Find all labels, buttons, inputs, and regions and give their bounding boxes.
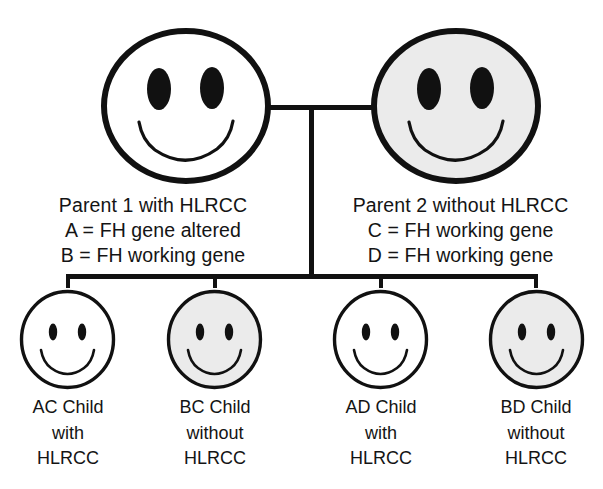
sibship-drop-child-ad [379,274,383,288]
child-ac-genotype: AC Child [0,395,136,421]
child-ad-label-block: AD Child with HLRCC [313,395,449,472]
child-ad-smiley-face [331,288,430,391]
parent-2-allele-c-description: FH working gene [404,219,553,241]
parent-2-allele-d: D = FH working gene [318,243,603,268]
child-bd-condition: HLRCC [468,446,603,472]
parent-2-allele-d-symbol: D [368,244,382,266]
parent-1-label-block: Parent 1 with HLRCC A = FH gene altered … [0,193,306,268]
parent-1-title: Parent 1 with HLRCC [0,193,306,218]
child-ad-condition: HLRCC [313,446,449,472]
parent-2-smiley-face [369,26,543,186]
parent-2-title: Parent 2 without HLRCC [318,193,603,218]
child-bc-status: without [147,421,283,447]
parent-1-allele-b-description: FH working gene [96,244,245,266]
child-bd-smiley-face [487,288,586,391]
sibship-horizontal-bar [66,274,538,279]
child-bd-label-block: BD Child without HLRCC [468,395,603,472]
child-ac-status: with [0,421,136,447]
parent-mating-horizontal-line [270,105,372,110]
child-bc-smiley-face [165,288,264,391]
parent-1-allele-a-symbol: A [65,219,77,241]
parent-1-allele-a-equals: = [83,219,95,241]
parent-1-allele-a: A = FH gene altered [0,218,306,243]
parent-1-allele-b-symbol: B [61,244,74,266]
child-bd-status: without [468,421,603,447]
parent-1-allele-b: B = FH working gene [0,243,306,268]
parent-1-smiley-face [99,26,273,186]
child-ad-genotype: AD Child [313,395,449,421]
hlrcc-inheritance-diagram: Parent 1 with HLRCC A = FH gene altered … [0,0,603,489]
parent-to-sibship-vertical-line [309,105,314,277]
child-bc-label-block: BC Child without HLRCC [147,395,283,472]
sibship-drop-child-bc [213,274,217,288]
child-bc-genotype: BC Child [147,395,283,421]
child-ac-smiley-face [18,288,117,391]
parent-2-allele-c-symbol: C [368,219,382,241]
child-bc-condition: HLRCC [147,446,283,472]
parent-2-allele-d-description: FH working gene [404,244,553,266]
parent-2-label-block: Parent 2 without HLRCC C = FH working ge… [318,193,603,268]
sibship-drop-child-ac [66,274,70,288]
child-bd-genotype: BD Child [468,395,603,421]
parent-2-allele-d-equals: = [387,244,399,266]
parent-2-allele-c-equals: = [387,219,399,241]
child-ad-status: with [313,421,449,447]
parent-1-allele-a-description: FH gene altered [100,219,241,241]
parent-1-allele-b-equals: = [79,244,91,266]
sibship-drop-child-bd [534,274,538,288]
parent-2-allele-c: C = FH working gene [318,218,603,243]
child-ac-condition: HLRCC [0,446,136,472]
child-ac-label-block: AC Child with HLRCC [0,395,136,472]
